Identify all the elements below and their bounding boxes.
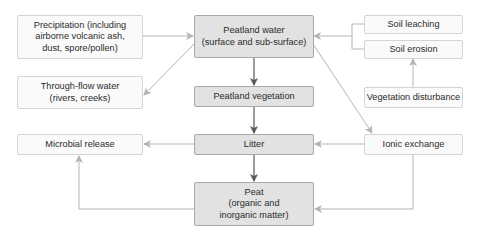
node-microbial-release: Microbial release xyxy=(17,134,143,155)
node-vegetation-disturbance: Vegetation disturbance xyxy=(364,87,463,108)
node-soil-leaching: Soil leaching xyxy=(364,15,463,34)
node-peatland-vegetation: Peatland vegetation xyxy=(194,86,314,107)
node-ionic-exchange: Ionic exchange xyxy=(364,134,463,155)
node-soil-erosion: Soil erosion xyxy=(364,40,463,59)
node-through-flow-water: Through-flow water (rivers, creeks) xyxy=(17,76,143,109)
node-precipitation: Precipitation (including airborne volcan… xyxy=(17,15,143,59)
node-peat: Peat (organic and inorganic matter) xyxy=(194,182,314,226)
node-litter: Litter xyxy=(194,134,314,155)
arrow-peat-to-microbial xyxy=(79,156,194,209)
arrow-soil-to-water xyxy=(352,24,364,49)
arrow-water-to-throughflow xyxy=(144,44,194,95)
arrow-ionic-to-peat xyxy=(315,154,413,209)
node-peatland-water: Peatland water (surface and sub-surface) xyxy=(194,15,314,58)
